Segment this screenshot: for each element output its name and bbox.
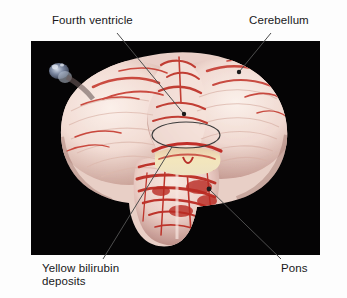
label-bilirubin-line-1: Yellow bilirubin [42,262,119,274]
label-bilirubin-line-2: deposits [42,275,86,287]
label-fourth-ventricle: Fourth ventricle [52,14,133,27]
label-pons: Pons [281,262,308,275]
specimen-photo-rendering [31,41,320,255]
specimen-photograph [31,41,320,255]
label-yellow-bilirubin-deposits: Yellow bilirubindeposits [42,262,119,288]
anatomy-figure: Fourth ventricle Cerebellum Yellow bilir… [0,0,347,298]
label-cerebellum: Cerebellum [249,14,309,27]
